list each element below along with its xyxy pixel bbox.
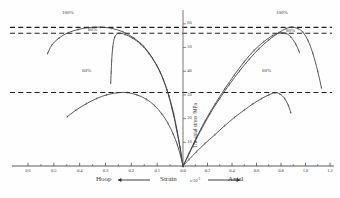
y-tick-label-0: 60 <box>187 21 191 25</box>
hoop-axis-caption: Hoop <box>96 176 112 183</box>
strain-exponent: -3 <box>197 177 200 181</box>
axis-layer <box>12 10 334 182</box>
x-tick-label-axial-1: 0.2 <box>203 169 213 174</box>
y-tick-label-1: 50 <box>187 45 191 49</box>
peak-dashed-lines <box>10 27 332 92</box>
y-tick-label-3: 30 <box>187 93 191 97</box>
x-tick-label-hoop-0: 0.6 <box>23 169 33 174</box>
curve-annotation-axial-100pct: 100% <box>276 10 288 15</box>
chart-figure: 0.60.50.40.30.20.10.00.20.40.60.81.01.26… <box>0 0 340 198</box>
x-tick-label-hoop-2: 0.4 <box>75 169 85 174</box>
curve-annotation-hoop-100pct: 100% <box>62 10 74 15</box>
x-tick-label-hoop-6: 0.0 <box>178 169 188 174</box>
curve-annotation-hoop-60pct: 60% <box>82 68 91 73</box>
y-tick-label-5: 10 <box>187 140 191 144</box>
hoop-direction-arrow <box>118 178 150 182</box>
y-axis-label: The axial stress /MPa <box>192 103 198 148</box>
curve-annotation-axial-60pct: 60% <box>262 68 271 73</box>
x-tick-label-hoop-1: 0.5 <box>49 169 59 174</box>
x-tick-label-hoop-3: 0.3 <box>101 169 111 174</box>
strain-symbol: ε/10-3 <box>190 178 200 184</box>
series-curve <box>48 27 183 166</box>
x-tick-label-hoop-5: 0.1 <box>152 169 162 174</box>
series-curve <box>183 93 291 166</box>
curve-annotation-hoop-80pct: 80% <box>88 27 97 32</box>
x-tick-label-axial-5: 1.0 <box>301 169 311 174</box>
x-tick-label-axial-3: 0.6 <box>252 169 262 174</box>
axial-axis-caption: Axial <box>228 176 244 183</box>
series-curve <box>183 33 299 166</box>
y-tick-label-4: 20 <box>187 116 191 120</box>
x-tick-label-axial-4: 0.8 <box>276 169 286 174</box>
strain-axis-caption: Strain <box>160 176 177 183</box>
x-tick-label-hoop-4: 0.2 <box>126 169 136 174</box>
series-curve <box>67 92 183 166</box>
x-tick-label-axial-6: 1.2 <box>325 169 335 174</box>
y-tick-label-2: 40 <box>187 69 191 73</box>
x-tick-label-axial-2: 0.4 <box>227 169 237 174</box>
curve-layer <box>48 27 322 166</box>
curve-annotation-axial-80pct: 80% <box>286 28 295 33</box>
